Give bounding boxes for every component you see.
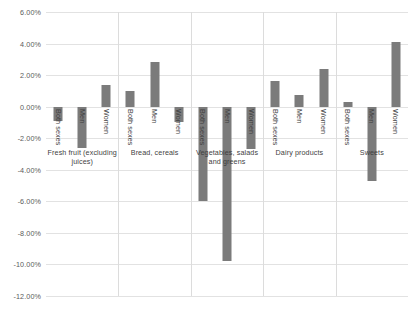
category-label: Dairy products [263,148,335,158]
bar-series-label: Men [223,109,232,123]
y-axis-tick-label: -2.00% [18,134,41,143]
bar-series-label: Women [174,109,183,134]
bar-series-label: Men [367,109,376,123]
category-label-line: juices) [46,157,118,167]
bar-series-label: Women [319,109,328,134]
category-label: Bread, cereals [118,148,190,158]
bar-series-label: Men [150,109,159,123]
bar[interactable] [223,107,232,262]
bar-series-label: Men [78,109,87,123]
bar-series-label: Both sexes [54,109,63,146]
y-axis-tick-label: 6.00% [20,8,41,17]
bar-series-label: Women [102,109,111,134]
y-axis-tick-label: 4.00% [20,39,41,48]
category-label-line: Dairy products [263,148,335,158]
category-label-line: Fresh fruit (excluding [46,148,118,158]
gridline--12.00%: -12.00% [46,296,408,297]
bar-series-label: Women [391,109,400,134]
category-label-line: Vegetables, salads [191,148,263,158]
plot-area: -12.00%-10.00%-8.00%-6.00%-4.00%-2.00%0.… [46,12,408,296]
y-axis-tick-label: 0.00% [20,102,41,111]
bar[interactable] [271,81,280,106]
bar[interactable] [391,42,400,107]
bar[interactable] [295,95,304,107]
y-axis-tick-label: 2.00% [20,71,41,80]
bar-series-label: Both sexes [126,109,135,146]
bar-groups: Both sexesMenWomenFresh fruit (excluding… [46,12,408,296]
bar-group: Both sexesMenWomenFresh fruit (excluding… [46,12,118,296]
y-axis-tick-label: -4.00% [18,165,41,174]
y-axis-tick-label: -10.00% [14,260,41,269]
bar-series-label: Men [295,109,304,123]
bar-series-label: Both sexes [271,109,280,146]
bar[interactable] [102,85,111,106]
category-label: Sweets [336,148,408,158]
bar-group: Both sexesMenWomenDairy products [263,12,335,296]
category-label-line: Bread, cereals [118,148,190,158]
category-label: Fresh fruit (excludingjuices) [46,148,118,167]
category-label: Vegetables, saladsand greens [191,148,263,167]
bar[interactable] [343,102,352,107]
y-axis-tick-label: -6.00% [18,197,41,206]
bar-series-label: Both sexes [198,109,207,146]
bar-series-label: Both sexes [343,109,352,146]
category-label-line: Sweets [336,148,408,158]
bar[interactable] [126,91,135,107]
bar-group: Both sexesMenWomenVegetables, saladsand … [191,12,263,296]
bar-series-label: Women [247,109,256,134]
bar-chart: -12.00%-10.00%-8.00%-6.00%-4.00%-2.00%0.… [0,0,416,315]
y-axis-tick-label: -12.00% [14,292,41,301]
category-label-line: and greens [191,157,263,167]
bar[interactable] [319,69,328,107]
bar-group: Both sexesMenWomenBread, cereals [118,12,190,296]
y-axis-tick-label: -8.00% [18,228,41,237]
bar[interactable] [150,62,159,106]
bar-group: Both sexesMenWomenSweets [336,12,408,296]
